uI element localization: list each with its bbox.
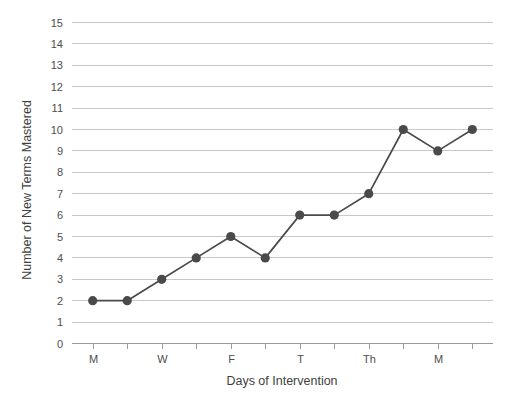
y-tick-label: 12 (51, 81, 63, 93)
data-point-marker (192, 253, 201, 262)
x-tick-label: T (297, 353, 304, 365)
data-point-marker (157, 275, 166, 284)
y-tick-label: 2 (57, 295, 63, 307)
y-tick-label: 7 (57, 188, 63, 200)
data-point-marker (364, 189, 373, 198)
y-tick-label: 9 (57, 145, 63, 157)
x-tick-label: F (228, 353, 235, 365)
y-tick-label: 15 (51, 17, 63, 29)
y-tick-label: 11 (52, 102, 63, 114)
chart-canvas: 0123456789101112131415 MWFTThM Number of… (0, 0, 510, 405)
y-tick-label: 10 (51, 124, 63, 136)
y-tick-label: 8 (57, 166, 63, 178)
chart-background (0, 0, 510, 405)
line-chart: 0123456789101112131415 MWFTThM Number of… (0, 0, 510, 405)
y-tick-label: 13 (51, 59, 63, 71)
x-axis-title: Days of Intervention (226, 374, 337, 388)
y-tick-label: 5 (57, 231, 63, 243)
data-point-marker (123, 296, 132, 305)
y-tick-label: 6 (57, 209, 63, 221)
data-point-marker (330, 211, 339, 220)
x-tick-label: M (434, 353, 443, 365)
y-tick-label: 1 (57, 316, 63, 328)
data-point-marker (88, 296, 97, 305)
x-tick-label: Th (363, 353, 376, 365)
data-point-marker (468, 125, 477, 134)
x-tick-label: W (157, 353, 168, 365)
y-axis-title: Number of New Terms Mastered (20, 100, 34, 280)
data-point-marker (261, 253, 270, 262)
y-tick-label: 3 (57, 273, 63, 285)
data-point-marker (433, 146, 442, 155)
y-tick-label: 0 (57, 338, 63, 350)
data-point-marker (226, 232, 235, 241)
y-tick-label: 14 (51, 38, 63, 50)
data-point-marker (295, 211, 304, 220)
data-point-marker (399, 125, 408, 134)
y-tick-label: 4 (57, 252, 63, 264)
x-tick-label: M (89, 353, 98, 365)
